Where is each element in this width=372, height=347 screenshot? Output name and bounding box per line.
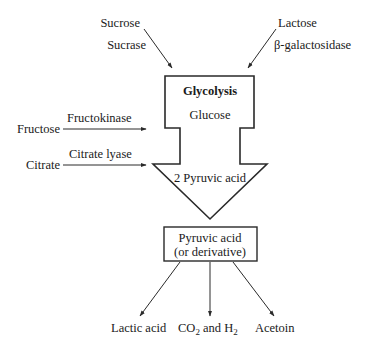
acetoin-arrow [233,262,274,316]
sucrase-label: Sucrase [107,38,146,52]
fructokinase-label: Fructokinase [67,111,132,125]
lactic-acid-arrow [140,262,180,316]
glucose-label: Glucose [190,108,231,122]
citrate-label: Citrate [26,158,60,172]
sucrose-arrow [144,29,172,68]
glycolysis-title: Glycolysis [183,84,237,98]
lactose-label: Lactose [278,16,317,30]
lactic-acid-label: Lactic acid [111,321,166,335]
two-pyruvic-acid-label: 2 Pyruvic acid [174,171,246,185]
beta-galactosidase-label: β-galactosidase [274,38,351,52]
co2-and-h2-label: CO2 and H2 [178,321,238,335]
pyruvic-acid-label: Pyruvic acid [179,231,242,245]
or-derivative-label: (or derivative) [174,245,246,259]
fructose-label: Fructose [17,122,60,136]
lactose-arrow [248,29,276,68]
sucrose-label: Sucrose [100,16,140,30]
acetoin-label: Acetoin [255,321,295,335]
citrate-lyase-label: Citrate lyase [69,147,132,161]
